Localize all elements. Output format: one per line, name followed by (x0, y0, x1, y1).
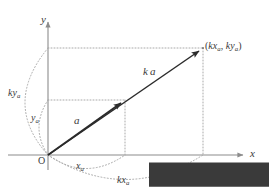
vector-a-base: a (74, 114, 80, 126)
point-close-paren: ) (238, 40, 241, 51)
point-kxa-kya (202, 47, 204, 49)
scaled-x-subscript: a (126, 179, 129, 186)
scaled-point-coordinates-label: (kxa, kya) (205, 41, 242, 53)
vector-ka-scalar: k (143, 65, 148, 77)
vector-scalar-multiplication-diagram: y x O ya kya xa kxa a k (0, 0, 269, 194)
vector-ka-base: a (150, 65, 156, 77)
scaled-y-component-label: kya (8, 88, 20, 100)
point-y-base: ky (226, 40, 235, 51)
y-component-subscript: a (36, 117, 39, 124)
x-component-base: x (76, 160, 80, 171)
x-axis-label: x (250, 148, 255, 159)
arc-kya (25, 48, 48, 155)
y-axis-label: y (41, 14, 46, 25)
vector-ka-overarrow-wrap: a (150, 66, 156, 77)
guide-arcs-group (25, 48, 203, 180)
point-x-base: kx (208, 40, 217, 51)
vector-a-overarrow-wrap: a (74, 115, 80, 126)
vector-group (48, 51, 199, 155)
arc-ya (39, 100, 48, 155)
scaled-y-subscript: a (17, 92, 20, 99)
vector-a-label: a (74, 115, 80, 126)
vector-ka-label: k a (143, 66, 156, 77)
x-component-label: xa (76, 161, 84, 173)
point-comma: , (221, 40, 224, 51)
y-component-base: y (31, 112, 35, 123)
vector-a (48, 103, 121, 155)
scaled-x-component-label: kxa (117, 175, 129, 187)
x-component-subscript: a (81, 165, 84, 172)
y-component-label: ya (31, 113, 39, 125)
origin-label: O (38, 156, 45, 166)
